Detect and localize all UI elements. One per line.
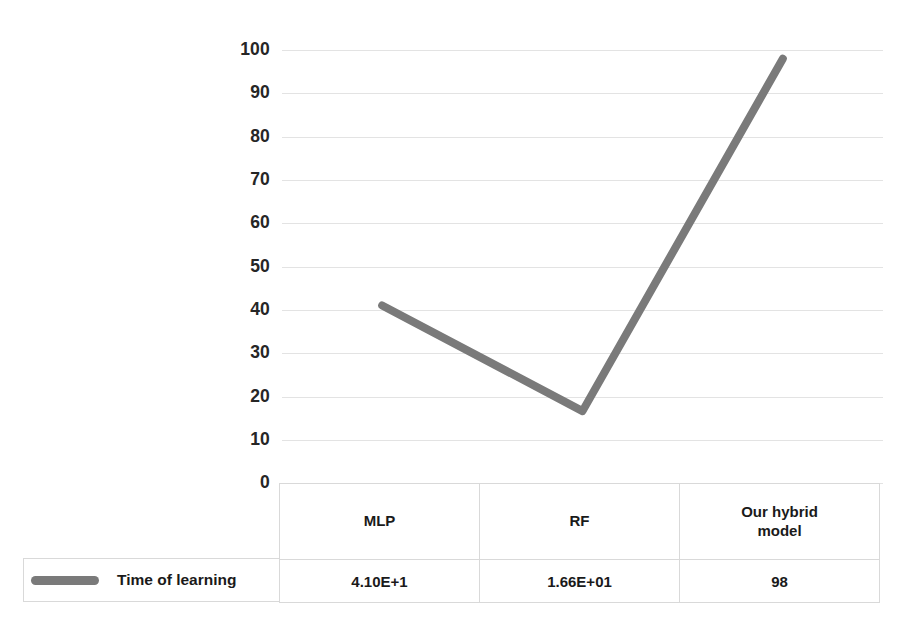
category-cell-mlp: MLP <box>280 484 480 560</box>
value-cell-our-hybrid-model: 98 <box>680 560 880 603</box>
category-cell-our-hybrid-model: Our hybrid model <box>680 484 880 560</box>
y-axis-tick-30: 30 <box>180 344 270 362</box>
value-cell-mlp: 4.10E+1 <box>280 560 480 603</box>
y-axis-tick-80: 80 <box>180 128 270 146</box>
value-cell-rf: 1.66E+01 <box>480 560 680 603</box>
y-axis: 100 90 80 70 60 50 40 30 20 10 0 <box>180 0 270 510</box>
series-line-time-of-learning <box>282 50 883 483</box>
y-axis-tick-50: 50 <box>180 258 270 276</box>
legend-series-label: Time of learning <box>117 571 236 589</box>
y-axis-tick-60: 60 <box>180 214 270 232</box>
category-cell-rf: RF <box>480 484 680 560</box>
line-swatch-icon <box>31 576 99 585</box>
y-axis-tick-0: 0 <box>180 474 270 492</box>
category-label-rf: RF <box>480 512 679 530</box>
legend-series-row: Time of learning <box>23 558 280 602</box>
chart-data-table: MLP RF Our hybrid model 4.10E+1 1.66E+01… <box>279 483 880 603</box>
y-axis-tick-90: 90 <box>180 84 270 102</box>
plot-area <box>282 50 883 483</box>
line-chart-with-data-table: 100 90 80 70 60 50 40 30 20 10 0 MLP <box>0 0 920 638</box>
category-label-mlp: MLP <box>280 512 479 530</box>
category-label-our-hybrid-model-line2: model <box>680 522 879 540</box>
category-label-our-hybrid-model-line1: Our hybrid <box>680 503 879 521</box>
table-row-categories: MLP RF Our hybrid model <box>280 484 880 560</box>
y-axis-tick-10: 10 <box>180 431 270 449</box>
y-axis-tick-40: 40 <box>180 301 270 319</box>
table-row-values: 4.10E+1 1.66E+01 98 <box>280 560 880 603</box>
y-axis-tick-20: 20 <box>180 388 270 406</box>
y-axis-tick-70: 70 <box>180 171 270 189</box>
y-axis-tick-100: 100 <box>180 41 270 59</box>
